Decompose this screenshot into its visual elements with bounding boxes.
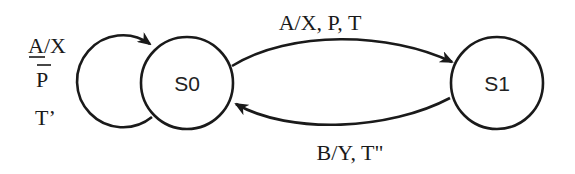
transition-s1-to-s0: B/Y, T" (236, 98, 450, 165)
transition-s0-to-s1: A/X, P, T (232, 10, 452, 66)
self-loop-label: A/X P T’ (28, 33, 66, 130)
transition-s0-to-s1-label: A/X, P, T (279, 10, 362, 35)
self-loop-label-line3: T’ (35, 105, 56, 130)
state-s0: S0 (141, 37, 233, 129)
arrow-s1-to-s0 (236, 98, 450, 125)
state-s1-label: S1 (484, 72, 510, 95)
self-loop-label-line2: P (36, 67, 48, 92)
self-loop-label-line1: A/X (28, 33, 66, 58)
transition-s1-to-s0-label: B/Y, T" (317, 140, 384, 165)
state-s1: S1 (451, 37, 543, 129)
state-s0-label: S0 (174, 72, 200, 95)
state-diagram: S0 S1 A/X, P, T B/Y, T" A/X P T’ (0, 0, 575, 174)
arrow-s0-to-s1 (232, 39, 452, 66)
